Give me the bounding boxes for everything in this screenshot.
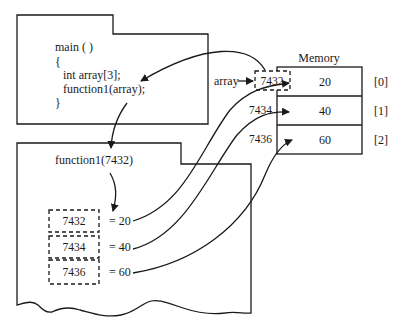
arrow-call-to-function <box>111 103 127 148</box>
memory-index-1: [1] <box>374 104 388 118</box>
memory-index-0: [0] <box>374 75 388 89</box>
code-line-main: main ( ) <box>55 40 93 54</box>
function-call-label: function1(7432) <box>55 153 133 167</box>
function-frame: function1(7432) 7432 7434 7436 = 20 = 40… <box>17 143 251 316</box>
param-value-2: = 60 <box>109 265 131 279</box>
memory-index-2: [2] <box>374 133 388 147</box>
array-pass-by-reference-diagram: main ( ) { int array[3]; function1(array… <box>0 0 395 333</box>
param-address-0: 7432 <box>63 215 86 227</box>
memory-value-2: 60 <box>319 133 331 147</box>
code-line-array-decl: int array[3]; <box>63 68 121 82</box>
code-line-close-brace: } <box>55 96 61 110</box>
memory-value-1: 40 <box>319 104 331 118</box>
param-address-2: 7436 <box>63 266 86 278</box>
memory-title: Memory <box>298 51 339 65</box>
memory-value-0: 20 <box>319 75 331 89</box>
arrow-pointer-to-array-decl <box>141 51 265 81</box>
memory-table: Memory 20 40 60 [0] [1] [2] 7434 7436 ar… <box>214 51 388 154</box>
main-frame: main ( ) { int array[3]; function1(array… <box>17 15 208 124</box>
arrow-function-to-params <box>110 173 116 211</box>
param-value-0: = 20 <box>109 214 131 228</box>
function-frame-outline <box>17 143 251 316</box>
code-line-open-brace: { <box>55 55 61 69</box>
memory-address-2: 7436 <box>249 133 272 145</box>
arrow-param2-to-cell2 <box>133 140 292 273</box>
param-value-1: = 40 <box>109 240 131 254</box>
code-line-function-call: function1(array); <box>63 82 145 96</box>
array-pointer-label: array <box>214 74 239 88</box>
param-address-1: 7434 <box>63 241 86 253</box>
